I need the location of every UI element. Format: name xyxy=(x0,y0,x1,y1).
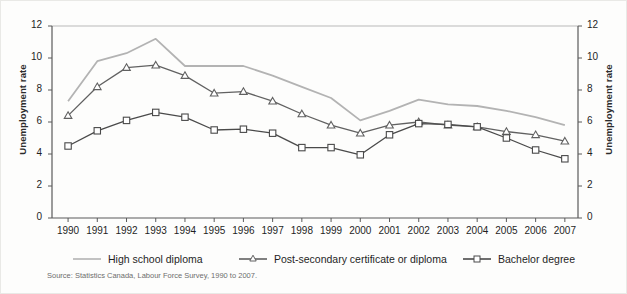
y-tick-label-left: 10 xyxy=(20,51,42,62)
series-marker-square xyxy=(532,147,538,153)
y-tick-label-right: 6 xyxy=(587,115,609,126)
legend-swatch-line-plain xyxy=(72,253,102,265)
series-line-1 xyxy=(68,65,565,141)
series-marker-square xyxy=(328,144,334,150)
y-tick-label-left: 0 xyxy=(20,211,42,222)
y-axis-label-right: Unemployment rate xyxy=(603,60,614,160)
y-tick-label-right: 10 xyxy=(587,51,609,62)
legend-item-bachelor-degree[interactable]: Bachelor degree xyxy=(462,250,575,268)
y-tick-label-left: 12 xyxy=(20,19,42,30)
y-tick-label-left: 4 xyxy=(20,147,42,158)
y-tick-label-right: 12 xyxy=(587,19,609,30)
legend-swatch-line-triangle xyxy=(238,253,268,265)
y-axis-label-left: Unemployment rate xyxy=(17,60,28,160)
series-marker-triangle xyxy=(93,83,101,90)
series-marker-square xyxy=(240,126,246,132)
series-marker-square xyxy=(357,152,363,158)
source-note: Source: Statistics Canada, Labour Force … xyxy=(47,271,257,280)
series-marker-triangle xyxy=(152,61,160,68)
series-marker-square xyxy=(562,156,568,162)
series-marker-square xyxy=(503,135,509,141)
series-marker-square xyxy=(386,132,392,138)
series-marker-square xyxy=(182,114,188,120)
series-marker-square xyxy=(269,130,275,136)
x-tick-label: 2007 xyxy=(548,225,582,236)
series-marker-square xyxy=(445,121,451,127)
series-marker-square xyxy=(416,120,422,126)
y-tick-label-right: 8 xyxy=(587,83,609,94)
legend-swatch-line-square xyxy=(462,253,492,265)
series-marker-square xyxy=(299,144,305,150)
y-tick-label-left: 8 xyxy=(20,83,42,94)
series-marker-square xyxy=(65,143,71,149)
series-marker-square xyxy=(94,128,100,134)
legend-label-2: Bachelor degree xyxy=(498,253,575,265)
y-tick-label-left: 6 xyxy=(20,115,42,126)
y-tick-label-right: 2 xyxy=(587,179,609,190)
series-marker-square xyxy=(153,109,159,115)
chart-figure: Unemployment rate Unemployment rate 0246… xyxy=(0,0,627,294)
legend-label-0: High school diploma xyxy=(108,253,203,265)
series-marker-square xyxy=(211,127,217,133)
y-tick-label-left: 2 xyxy=(20,179,42,190)
legend-label-1: Post-secondary certificate or diploma xyxy=(274,253,447,265)
y-tick-label-right: 4 xyxy=(587,147,609,158)
legend-item-post-secondary[interactable]: Post-secondary certificate or diploma xyxy=(238,250,447,268)
series-marker-square xyxy=(474,124,480,130)
chart-legend: High school diploma Post-secondary certi… xyxy=(52,250,592,268)
legend-item-high-school-diploma[interactable]: High school diploma xyxy=(72,250,203,268)
y-tick-label-right: 0 xyxy=(587,211,609,222)
series-marker-square xyxy=(123,117,129,123)
series-line-0 xyxy=(68,39,565,125)
